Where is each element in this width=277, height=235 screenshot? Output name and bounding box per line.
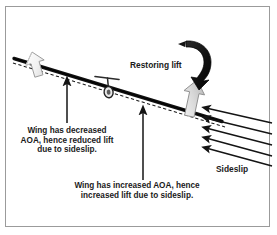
restoring-roll-curved-arrow (178, 41, 211, 90)
label-increased-aoa-line2: increased lift due to sideslip. (62, 191, 212, 201)
label-increased-aoa-callout: Wing has increased AOA, hence increased … (62, 181, 212, 200)
label-decreased-aoa-line1: Wing has decreased (12, 126, 122, 136)
label-increased-aoa-line1: Wing has increased AOA, hence (62, 181, 212, 191)
label-decreased-aoa-line3: due to sideslip. (12, 145, 122, 155)
label-sideslip: Sideslip (216, 165, 248, 175)
label-restoring-lift: Restoring lift (130, 61, 182, 71)
label-decreased-aoa-line2: AOA, hence reduced lift (12, 136, 122, 146)
label-decreased-aoa-callout: Wing has decreased AOA, hence reduced li… (12, 126, 122, 155)
diagram-figure: Wing has decreased AOA, hence reduced li… (0, 0, 277, 235)
reduced-lift-arrow (23, 49, 48, 78)
aircraft-front-silhouette (95, 77, 119, 99)
sideslip-airflow-arrows (206, 108, 272, 166)
